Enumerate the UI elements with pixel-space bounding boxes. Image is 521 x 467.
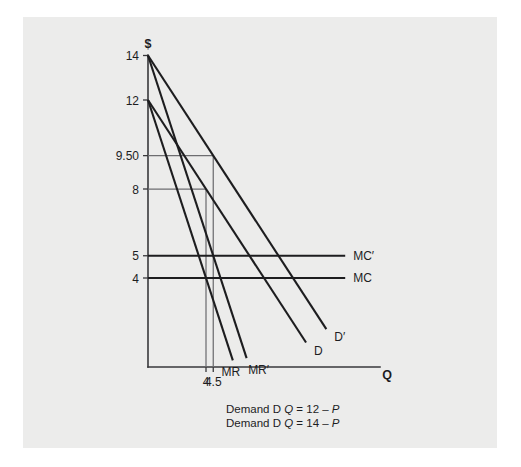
curve-MR' <box>148 56 247 359</box>
caption-dprime-prefix: Demand D <box>226 417 284 429</box>
caption-line-demand-d-prime: Demand D Q = 14 – P <box>226 416 339 430</box>
y-tick-label-9.50: 9.50 <box>116 149 140 163</box>
guide-lines-group <box>148 156 213 367</box>
curve-MR <box>148 100 233 360</box>
caption-dprime-equation: = 14 – <box>293 417 332 429</box>
caption-d-price-var: P <box>332 403 340 415</box>
y-tick-label-8: 8 <box>132 183 139 197</box>
curve-D' <box>148 56 326 330</box>
y-tick-label-5: 5 <box>132 249 139 263</box>
curve-label-MC': MC′ <box>353 249 375 263</box>
x-tick-labels-group: 44.5 <box>203 375 222 389</box>
x-axis-label: Q <box>382 368 392 382</box>
caption-block: Demand D Q = 12 – P Demand D Q = 14 – P <box>226 402 339 430</box>
curve-label-MR: MR <box>221 365 240 379</box>
curve-label-MC: MC <box>353 271 372 285</box>
curve-labels-group: DD′MRMR′MCMC′ <box>221 249 374 380</box>
y-axis-label: $ <box>145 37 152 51</box>
caption-dprime-quantity-var: Q <box>284 417 293 429</box>
curves-group <box>148 56 345 361</box>
x-tick-label-4.5: 4.5 <box>205 375 222 389</box>
curve-D <box>148 100 306 343</box>
monopoly-diagram: $ Q 14129.50854 44.5 DD′MRMR′MCMC′ <box>0 0 521 467</box>
y-tick-labels-group: 14129.50854 <box>116 49 140 286</box>
curve-label-D: D <box>314 344 323 358</box>
curve-label-D': D′ <box>334 330 346 344</box>
caption-d-prefix: Demand D <box>226 403 284 415</box>
caption-d-equation: = 12 – <box>293 403 332 415</box>
curve-label-MR': MR′ <box>248 363 270 377</box>
y-tick-label-4: 4 <box>132 272 139 286</box>
caption-line-demand-d: Demand D Q = 12 – P <box>226 402 339 416</box>
y-tick-label-12: 12 <box>126 94 140 108</box>
y-tick-label-14: 14 <box>126 49 140 63</box>
caption-dprime-price-var: P <box>332 417 340 429</box>
caption-d-quantity-var: Q <box>284 403 293 415</box>
